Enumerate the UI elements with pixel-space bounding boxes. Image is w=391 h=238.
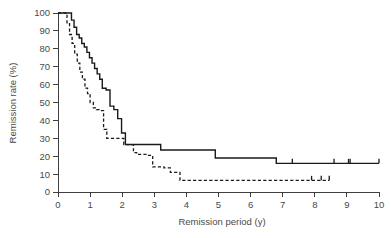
remission-rate-chart: 0102030405060708090100 012345678910 Remi…: [0, 0, 391, 238]
y-tick-label: 10: [39, 169, 50, 180]
survival-curve-dashed: [58, 13, 329, 180]
y-tick-label: 40: [39, 115, 50, 126]
x-tick-label: 2: [120, 199, 125, 210]
x-tick-group: 012345678910: [55, 192, 384, 210]
x-tick-label: 6: [248, 199, 253, 210]
y-tick-group: 0102030405060708090100: [34, 7, 58, 197]
censor-marks-dashed: [312, 176, 330, 181]
chart-container: 0102030405060708090100 012345678910 Remi…: [0, 0, 391, 238]
x-axis-title: Remission period (y): [178, 216, 265, 227]
x-tick-label: 3: [152, 199, 157, 210]
axis-group: [58, 13, 379, 192]
x-tick-label: 0: [55, 199, 60, 210]
y-axis-title: Remission rate (%): [7, 63, 18, 144]
survival-curve-solid: [58, 13, 379, 163]
x-tick-label: 5: [216, 199, 221, 210]
x-tick-label: 1: [87, 199, 92, 210]
y-tick-label: 30: [39, 133, 50, 144]
y-tick-label: 70: [39, 61, 50, 72]
y-tick-label: 50: [39, 97, 50, 108]
y-tick-label: 0: [45, 186, 50, 197]
x-tick-label: 9: [344, 199, 349, 210]
y-tick-label: 20: [39, 151, 50, 162]
y-tick-label: 90: [39, 25, 50, 36]
y-tick-label: 80: [39, 43, 50, 54]
x-tick-label: 4: [184, 199, 189, 210]
y-tick-label: 100: [34, 7, 50, 18]
series-group: [58, 13, 379, 180]
y-tick-label: 60: [39, 79, 50, 90]
x-tick-label: 10: [374, 199, 385, 210]
x-tick-label: 8: [312, 199, 317, 210]
x-tick-label: 7: [280, 199, 285, 210]
